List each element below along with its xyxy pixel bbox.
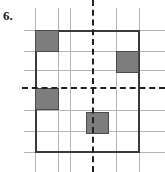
grid-border-bottom	[35, 151, 140, 153]
gridline-horizontal-3	[24, 70, 165, 71]
gridline-horizontal-4	[24, 110, 165, 111]
gridline-vertical-3	[70, 8, 71, 172]
shaded-cell-lower-center	[86, 112, 109, 134]
worksheet-problem-figure: 6.	[0, 0, 165, 172]
shaded-cell-top-left	[35, 30, 59, 52]
horizontal-axis-of-symmetry	[22, 87, 165, 89]
shaded-cell-mid-left	[35, 88, 59, 110]
grid-border-right	[138, 30, 140, 153]
symmetry-grid-figure	[0, 0, 165, 172]
shaded-cell-upper-right	[116, 51, 139, 73]
gridline-vertical-4	[116, 8, 117, 172]
vertical-axis-of-symmetry	[92, 0, 94, 172]
